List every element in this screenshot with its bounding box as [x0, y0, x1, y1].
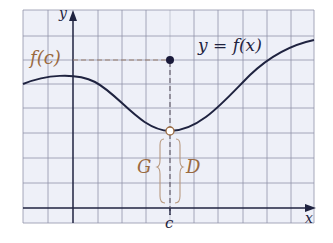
- curve-label: y = f(x): [198, 35, 262, 55]
- filled-point: [166, 56, 174, 64]
- left-label: G: [137, 156, 151, 177]
- fc-label: f(c): [30, 47, 61, 68]
- grid-background: [23, 10, 314, 223]
- right-label: D: [186, 156, 200, 177]
- function-graph: [0, 0, 333, 243]
- open-point: [166, 127, 174, 135]
- c-label: c: [165, 214, 173, 232]
- x-axis-label: x: [305, 210, 313, 226]
- y-axis-label: y: [59, 5, 67, 21]
